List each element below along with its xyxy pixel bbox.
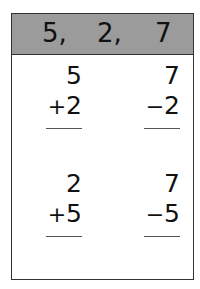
header-number: 5, [42, 18, 67, 48]
bottom-number: 5 [66, 199, 82, 228]
answer-line [46, 128, 82, 129]
addition-problem: 5 +2 [22, 61, 82, 129]
number-set-header: 5, 2, 7 [12, 14, 193, 55]
top-number: 7 [120, 61, 180, 91]
plus-sign: + [48, 94, 66, 119]
minus-sign: − [146, 94, 164, 119]
bottom-number: 2 [164, 91, 180, 120]
header-number: 7 [155, 18, 172, 48]
header-number: 2, [97, 18, 122, 48]
top-number: 7 [120, 169, 180, 199]
subtraction-problem: 7 −2 [120, 61, 180, 129]
fact-family-card: 5, 2, 7 5 +2 7 −2 2 +5 7 −5 [11, 13, 194, 280]
bottom-number: 5 [164, 199, 180, 228]
subtraction-problem: 7 −5 [120, 169, 180, 237]
answer-line [144, 128, 180, 129]
answer-line [144, 236, 180, 237]
plus-sign: + [48, 202, 66, 227]
bottom-number: 2 [66, 91, 82, 120]
addition-problem: 2 +5 [22, 169, 82, 237]
minus-sign: − [146, 202, 164, 227]
answer-line [46, 236, 82, 237]
top-number: 5 [22, 61, 82, 91]
top-number: 2 [22, 169, 82, 199]
